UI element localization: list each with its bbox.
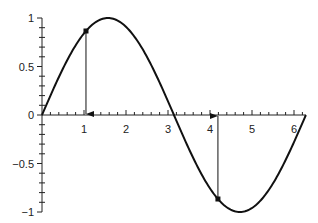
y-tick-label: −0.5 <box>12 158 34 170</box>
x-tick-label: 4 <box>207 123 213 135</box>
y-axis: 10.50−0.5−1 <box>12 12 45 218</box>
annotation-arrow <box>83 28 88 114</box>
x-tick-label: 1 <box>81 123 87 135</box>
x-tick-label: 6 <box>291 123 297 135</box>
x-tick-label: 3 <box>165 123 171 135</box>
y-tick-label: 0.5 <box>19 61 34 73</box>
y-tick-label: 1 <box>28 12 34 24</box>
sine-chart: 10.50−0.5−1 123456 <box>0 0 318 223</box>
y-tick-label: 0 <box>28 109 34 121</box>
data-point-marker <box>215 197 220 202</box>
y-tick-label: −1 <box>21 206 34 218</box>
data-point-marker <box>83 28 88 33</box>
annotation-arrow <box>215 116 220 202</box>
x-tick-label: 2 <box>123 123 129 135</box>
x-tick-label: 5 <box>249 123 255 135</box>
